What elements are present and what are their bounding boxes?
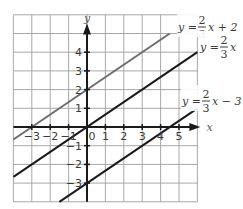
x-tick-label: −2 <box>42 130 58 143</box>
x-tick-label: 4 <box>157 130 164 143</box>
x-tick-label: 1 <box>102 130 109 143</box>
y-axis-label: y <box>83 12 91 25</box>
equation-labels: y =23x + 2y =23xy =23x − 3 <box>177 11 243 115</box>
equation-lhs: y = <box>199 41 219 54</box>
x-tick-label: 3 <box>139 130 146 143</box>
y-tick-label: 4 <box>75 46 82 59</box>
x-tick-label: 0 <box>89 130 96 143</box>
grid <box>13 15 197 202</box>
fraction-numerator: 2 <box>199 14 206 27</box>
y-tick-label: −2 <box>66 158 82 171</box>
linear-graphs-chart: xy −3−2−1012345−3−2−11234 y =23x + 2y =2… <box>0 0 243 209</box>
fraction-denominator: 3 <box>221 48 228 61</box>
equation-label-1: y =23x <box>199 31 243 61</box>
y-tick-label: 1 <box>75 102 82 115</box>
x-axis-arrow-icon <box>189 123 200 131</box>
x-tick-label: −3 <box>24 130 40 143</box>
x-tick-label: 5 <box>176 130 183 143</box>
y-tick-label: −3 <box>66 177 82 190</box>
y-axis-arrow-icon <box>83 24 91 35</box>
equation-lhs: y = <box>177 21 197 34</box>
x-tick-label: 2 <box>120 130 127 143</box>
y-tick-label: 3 <box>75 65 82 78</box>
equation-rhs: x − 3 <box>212 95 241 108</box>
x-axis-label: x <box>206 121 213 134</box>
fraction-denominator: 3 <box>203 102 210 115</box>
y-tick-label: 2 <box>75 84 82 97</box>
equation-rhs: x <box>230 41 237 54</box>
equation-label-2: y =23x − 3 <box>181 85 243 115</box>
fraction-numerator: 2 <box>203 88 210 101</box>
tick-labels: −3−2−1012345−3−2−11234 <box>24 46 183 190</box>
equation-lhs: y = <box>181 95 201 108</box>
fraction-numerator: 2 <box>221 34 228 47</box>
y-tick-label: −1 <box>66 140 82 153</box>
